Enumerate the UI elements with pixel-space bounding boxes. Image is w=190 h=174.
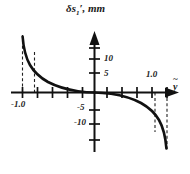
curve-right-branch — [95, 93, 167, 149]
x-tick-label-1: 1.0 — [146, 70, 157, 79]
y-tick-label-minus-5: -5 — [77, 103, 85, 112]
x-axis-label: ~y — [173, 82, 177, 92]
chart-plot-area — [0, 0, 190, 174]
y-tick-label-minus-10: -10 — [74, 118, 86, 127]
chart-title-unit: , mm — [83, 2, 106, 14]
x-tick-label-minus-1: -1.0 — [11, 100, 25, 109]
chart-title: δs1′, mm — [66, 3, 105, 17]
y-tick-label-5: 5 — [104, 69, 109, 78]
y-tick-label-10: 10 — [104, 54, 113, 63]
y-axis-arrow-icon — [90, 31, 100, 45]
chart-figure: δs1′, mm 10 5 -5 -10 -1.0 1.0 ~y — [0, 0, 190, 174]
tilde-accent-icon: ~ — [173, 75, 177, 84]
curve-left-branch — [23, 37, 95, 93]
